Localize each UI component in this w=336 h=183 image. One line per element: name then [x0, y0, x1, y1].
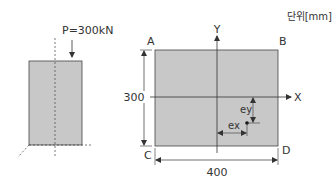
height-dimension: 300: [124, 91, 145, 104]
column-section: [155, 50, 278, 146]
load-label: P=300kN: [62, 24, 113, 37]
column-elevation: [29, 61, 82, 145]
ex-label: ex: [228, 120, 240, 131]
elevation-view: P=300kN: [18, 24, 113, 157]
section-view: Y X A B C D 300 400 ex ey: [124, 23, 303, 179]
corner-b: B: [279, 35, 287, 48]
ey-label: ey: [240, 104, 252, 115]
corner-d: D: [282, 144, 290, 157]
column-diagram: 단위[mm] P=300kN Y X A B C D 300 4: [0, 0, 336, 183]
x-axis-label: X: [294, 91, 302, 104]
unit-label: 단위[mm]: [287, 10, 332, 22]
corner-c: C: [144, 149, 152, 162]
width-dimension: 400: [207, 166, 228, 179]
corner-a: A: [147, 35, 155, 48]
base-z-line: [18, 145, 29, 157]
y-axis-label: Y: [213, 23, 221, 36]
